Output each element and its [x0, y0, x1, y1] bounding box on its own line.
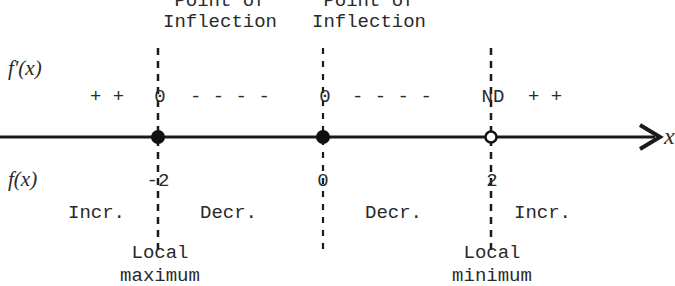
inflection-label-1-line2: Inflection: [163, 13, 277, 32]
inflection-label-1-line1: Point of: [174, 0, 265, 11]
derivative-value-x-0: 0: [319, 88, 330, 107]
x-value-neg2: -2: [147, 172, 170, 191]
behavior-interval3: Decr.: [365, 204, 422, 223]
x-axis-label: x: [664, 124, 675, 148]
filled-dot-x-0: [316, 130, 330, 144]
behavior-interval2: Decr.: [200, 204, 257, 223]
inflection-label-2-line2: Inflection: [312, 13, 426, 32]
derivative-value-x-neg2: 0: [154, 88, 165, 107]
derivative-sign-interval1: + +: [90, 88, 124, 107]
derivative-sign-interval4: + +: [528, 88, 562, 107]
open-dot-x-2: [486, 132, 497, 143]
function-row-label: f(x): [8, 169, 37, 190]
derivative-value-x-2: ND: [482, 88, 505, 107]
derivative-sign-interval3: - - - -: [352, 88, 432, 107]
x-value-2: 2: [486, 172, 497, 191]
local-max-label-line2: maximum: [120, 267, 200, 286]
local-min-label-line2: minimum: [452, 267, 532, 286]
behavior-interval4: Incr.: [514, 204, 571, 223]
local-min-label-line1: Local: [463, 244, 520, 263]
local-max-label-line1: Local: [131, 244, 188, 263]
derivative-sign-interval2: - - - -: [190, 88, 270, 107]
derivative-row-label: f'(x): [8, 58, 42, 79]
filled-dot-x-neg2: [151, 130, 165, 144]
inflection-label-2-line1: Point of: [323, 0, 414, 11]
behavior-interval1: Incr.: [68, 204, 125, 223]
x-value-0: 0: [317, 172, 328, 191]
